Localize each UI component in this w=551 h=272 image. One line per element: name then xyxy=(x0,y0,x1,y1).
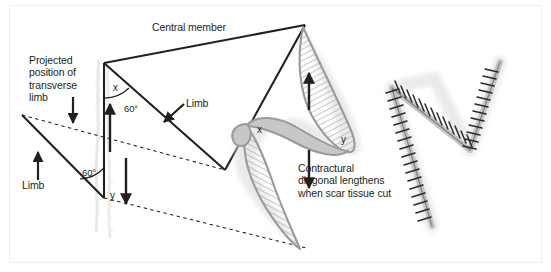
projected-position-label: Projected position of transverse limb xyxy=(29,54,77,104)
figure-artwork xyxy=(0,0,551,272)
limb-right-label: Limb xyxy=(186,97,208,109)
limb-right-line xyxy=(104,63,225,170)
vertex-y-label: y xyxy=(110,190,115,202)
central-member-label: Central member xyxy=(152,21,226,33)
contractural-caption: Contractural diagonal lengthens when sca… xyxy=(298,162,391,199)
vertex-x-label: x xyxy=(113,82,118,94)
angle-top-label: 60° xyxy=(124,103,138,115)
limb-left-label: Limb xyxy=(22,179,44,191)
limb-right-leader-arrow xyxy=(164,104,184,122)
flap-x-label: x xyxy=(257,124,262,136)
angle-bottom-label: 60° xyxy=(82,167,96,179)
panel-sutured-artwork xyxy=(386,62,500,226)
flap-left-tip xyxy=(232,124,251,146)
figure-root: Projected position of transverse limb Ce… xyxy=(0,0,551,272)
suture-stitches-limb-c xyxy=(386,89,431,221)
flap-y-label: y xyxy=(341,134,346,146)
